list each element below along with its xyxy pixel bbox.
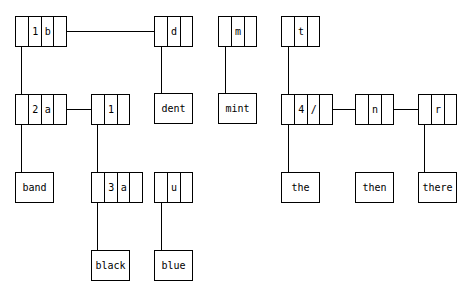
pointer-cell [92,173,104,202]
leaf-black: black [91,250,130,281]
next-cell [129,173,142,202]
leaf-there: there [418,172,457,203]
leaf-then: then [355,172,394,203]
next-cell [381,95,393,124]
char-cell: r [431,95,443,124]
char-cell: 1 [104,95,116,124]
char-cell: d [167,17,179,46]
count-cell: 1 [28,17,41,46]
pointer-cell [155,17,167,46]
node-m: m [218,16,257,47]
node-1: 1 [91,94,130,125]
node-1b: 1 b [15,16,67,47]
node-4: 4 / [281,94,333,125]
node-3a: 3 a [91,172,143,203]
char-cell: b [41,17,54,46]
next-cell [117,95,129,124]
node-2a: 2 a [15,94,67,125]
node-u: u [154,172,193,203]
pointer-cell [92,95,104,124]
pointer-cell [282,17,294,46]
char-cell: / [307,95,320,124]
node-d: d [154,16,193,47]
pointer-cell [356,95,368,124]
leaf-band: band [15,172,54,203]
node-r: r [418,94,457,125]
char-cell: m [231,17,243,46]
next-cell [444,95,456,124]
char-cell: t [294,17,306,46]
next-cell [180,17,192,46]
next-cell [244,17,256,46]
char-cell: n [368,95,380,124]
leaf-the: the [281,172,320,203]
next-cell [307,17,319,46]
leaf-mint: mint [218,93,257,124]
pointer-cell [282,95,294,124]
pointer-cell [419,95,431,124]
pointer-cell [155,173,167,202]
count-cell: 3 [104,173,117,202]
next-cell [180,173,192,202]
node-t: t [281,16,320,47]
pointer-cell [219,17,231,46]
next-cell [319,95,332,124]
node-n: n [355,94,394,125]
edge-1b-to-d [60,31,161,32]
char-cell: a [41,95,54,124]
count-cell: 2 [28,95,41,124]
next-cell [53,95,66,124]
leaf-blue: blue [154,250,193,281]
char-cell: u [167,173,179,202]
char-cell: a [117,173,130,202]
leaf-dent: dent [154,93,193,124]
count-cell: 4 [294,95,307,124]
pointer-cell [16,95,28,124]
next-cell [53,17,66,46]
trie-diagram: 1 b d m t 2 a 1 dent mint 4 / n [0,0,468,298]
pointer-cell [16,17,28,46]
